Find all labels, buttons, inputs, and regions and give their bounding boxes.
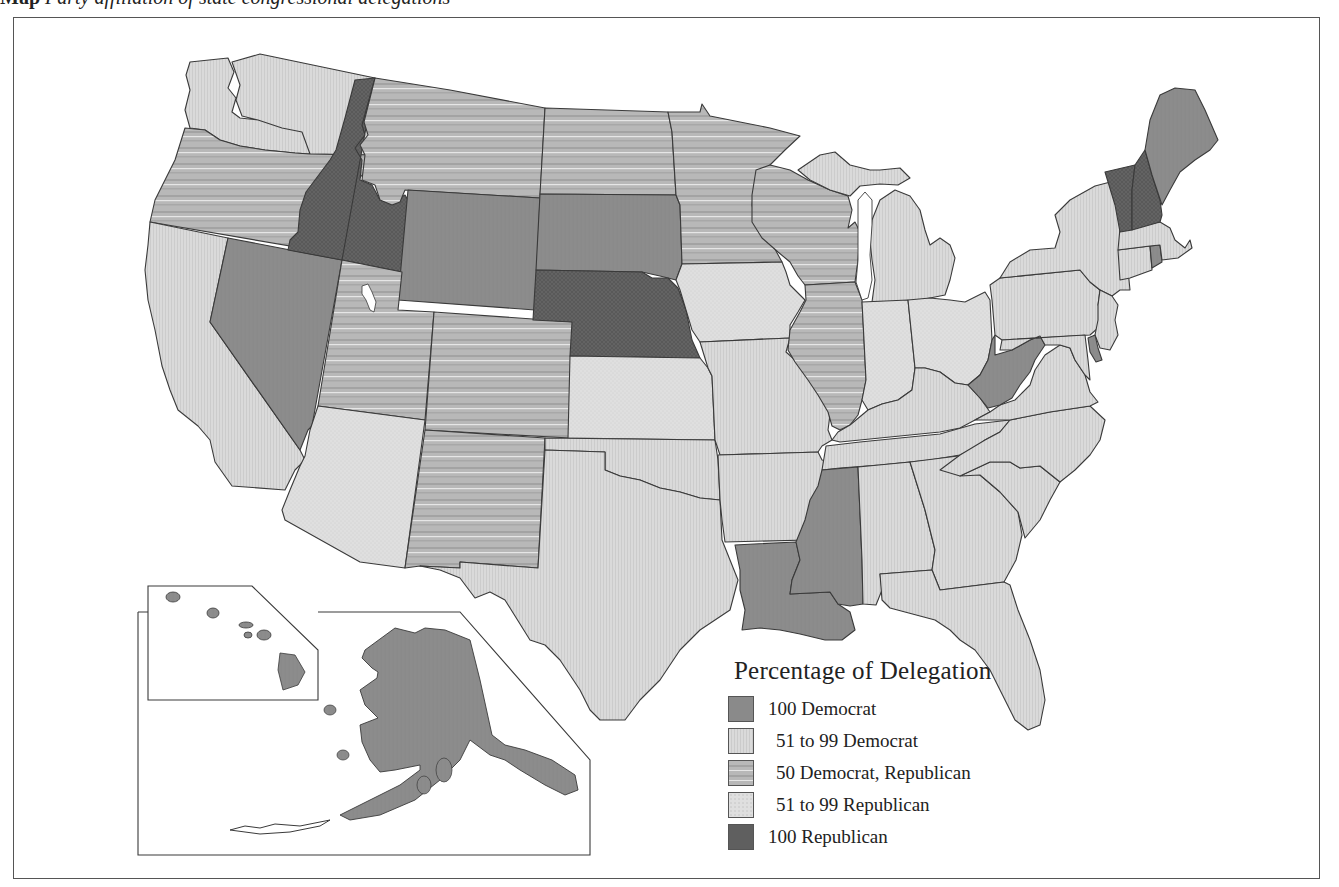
legend-item-dem51: 51 to 99 Democrat [728, 725, 991, 757]
state-KS [568, 356, 715, 440]
legend-label: 100 Republican [768, 826, 888, 848]
state-PA [990, 270, 1105, 340]
legend-label: 100 Democrat [768, 698, 876, 720]
state-CT [1118, 246, 1152, 280]
legend-item-rep100: 100 Republican [728, 821, 991, 853]
state-ND [540, 108, 676, 195]
swatch-rep100-icon [728, 824, 754, 850]
state-CO [425, 312, 575, 438]
state-NM [405, 430, 545, 568]
state-SD [536, 194, 682, 280]
state-NJ [1095, 290, 1118, 350]
swatch-split50-icon [728, 760, 754, 786]
legend-item-rep51: 51 to 99 Republican [728, 789, 991, 821]
swatch-dem51-icon [728, 728, 754, 754]
lake-michigan [856, 192, 872, 300]
legend-label: 51 to 99 Republican [776, 794, 930, 816]
state-IA [676, 262, 805, 342]
legend-item-dem100: 100 Democrat [728, 693, 991, 725]
state-ME [1145, 88, 1218, 205]
legend-item-split50: 50 Democrat, Republican [728, 757, 991, 789]
legend-label: 50 Democrat, Republican [776, 762, 971, 784]
swatch-rep51-icon [728, 792, 754, 818]
us-map [0, 0, 1339, 887]
legend-label: 51 to 99 Democrat [776, 730, 918, 752]
legend-title: Percentage of Delegation [734, 657, 991, 685]
legend: Percentage of Delegation 100 Democrat 51… [728, 657, 991, 853]
state-MT [360, 78, 545, 205]
swatch-dem100-icon [728, 696, 754, 722]
state-WY [398, 190, 540, 310]
state-AK [340, 628, 578, 820]
